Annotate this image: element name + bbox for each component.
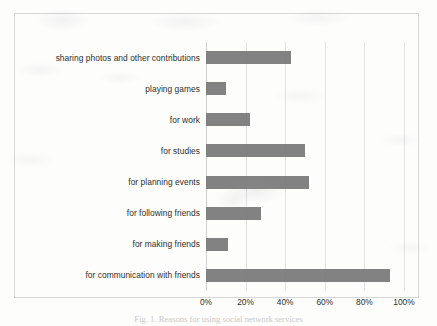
bar	[206, 176, 309, 189]
plot-area: sharing photos and other contributionspl…	[206, 42, 404, 291]
x-tick-label: 80%	[356, 297, 373, 307]
bar-row: playing games	[206, 73, 404, 104]
x-tick-label: 0%	[200, 297, 212, 307]
category-label: for making friends	[133, 239, 200, 249]
bar	[206, 269, 390, 282]
category-label: for following friends	[127, 208, 200, 218]
bar-row: for studies	[206, 135, 404, 166]
x-tick-label: 100%	[393, 297, 414, 307]
bar-row: for communication with friends	[206, 260, 404, 291]
bar	[206, 113, 250, 126]
x-tick-label: 20%	[237, 297, 254, 307]
bar	[206, 238, 228, 251]
category-label: sharing photos and other contributions	[56, 53, 200, 63]
category-label: for studies	[161, 146, 200, 156]
category-label: for planning events	[128, 177, 200, 187]
category-label: playing games	[145, 84, 200, 94]
bar-row: for work	[206, 104, 404, 135]
bar-row: for following friends	[206, 198, 404, 229]
category-label: for work	[170, 115, 200, 125]
bar-rows: sharing photos and other contributionspl…	[206, 42, 404, 291]
x-tick-label: 40%	[277, 297, 294, 307]
category-label: for communication with friends	[85, 270, 200, 280]
bar	[206, 144, 305, 157]
bar-row: sharing photos and other contributions	[206, 42, 404, 73]
figure-caption: Fig. 1. Reasons for using social network…	[0, 314, 437, 324]
bar-row: for planning events	[206, 167, 404, 198]
bar	[206, 207, 261, 220]
chart-frame: sharing photos and other contributionspl…	[14, 13, 419, 298]
bar	[206, 82, 226, 95]
x-axis: 0%20%40%60%80%100%	[206, 297, 404, 311]
bar	[206, 51, 291, 64]
gridline-100	[404, 42, 405, 291]
bar-row: for making friends	[206, 229, 404, 260]
x-tick-label: 60%	[316, 297, 333, 307]
